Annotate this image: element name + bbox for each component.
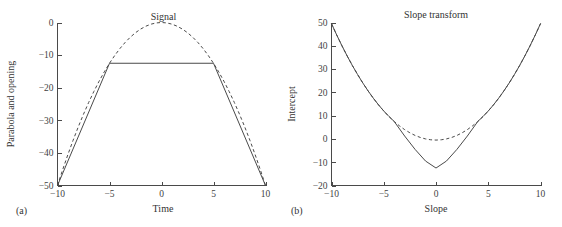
curve-opening-solid — [58, 63, 266, 185]
x-tick-label: −5 — [379, 189, 389, 199]
panel-a-ticks: −10−505100−10−20−30−40−50 — [39, 18, 271, 199]
x-tick-label: 10 — [261, 189, 271, 199]
y-tick-label: −10 — [39, 50, 54, 60]
curve-parabola-dashed — [58, 23, 266, 186]
y-tick-label: −20 — [39, 83, 54, 93]
y-tick-label: 50 — [318, 18, 328, 28]
x-tick-label: 5 — [211, 189, 216, 199]
y-tick-label: 20 — [318, 88, 328, 98]
panel-b-xlabel: Slope — [425, 203, 448, 214]
panel-b-ylabel: Intercept — [286, 86, 297, 122]
curve-parabola-transform-dashed — [332, 24, 541, 140]
y-tick-label: 30 — [318, 64, 328, 74]
y-tick-label: −20 — [313, 181, 328, 191]
figure-root: Signal −10−505100−10−20−30−40−50 Time Pa… — [0, 0, 562, 227]
chart-panel-signal: Signal −10−505100−10−20−30−40−50 Time Pa… — [0, 0, 281, 227]
panel-a-ylabel: Parabola and opening — [5, 61, 16, 148]
panel-b-ticks: −10−5051050403020100−10−20 — [313, 18, 546, 199]
panel-b-curves — [332, 24, 541, 168]
chart-panel-slope-transform: Slope transform −10−5051050403020100−10−… — [281, 0, 562, 227]
panel-b-tag: (b) — [291, 205, 303, 217]
y-tick-label: −50 — [39, 181, 54, 191]
y-tick-label: 10 — [318, 111, 328, 121]
y-tick-label: −30 — [39, 116, 54, 126]
x-tick-label: −5 — [104, 189, 114, 199]
panel-a-curves — [58, 23, 266, 186]
x-tick-label: 0 — [434, 189, 439, 199]
panel-a-xlabel: Time — [153, 203, 174, 214]
y-tick-label: 0 — [49, 18, 54, 28]
x-tick-label: 5 — [486, 189, 491, 199]
y-tick-label: 0 — [323, 134, 328, 144]
x-tick-label: 10 — [536, 189, 546, 199]
panel-a-axes — [58, 23, 266, 186]
y-tick-label: −10 — [313, 158, 328, 168]
x-tick-label: 0 — [159, 189, 164, 199]
panel-a-title: Signal — [151, 11, 177, 22]
y-tick-label: −40 — [39, 148, 54, 158]
panel-b-title: Slope transform — [404, 9, 468, 20]
y-tick-label: 40 — [318, 41, 328, 51]
panel-a-tag: (a) — [16, 205, 27, 217]
panel-b-axes — [332, 23, 541, 186]
curve-opening-transform-solid — [332, 24, 541, 168]
